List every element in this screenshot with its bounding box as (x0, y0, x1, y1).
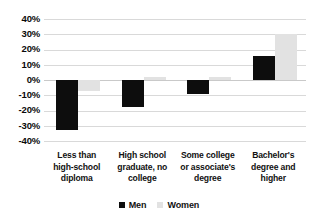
y-tick-label: 0% (0, 75, 40, 85)
bar-women (144, 77, 166, 80)
bar-chart: 40% 30% 20% 10% 0% -10% -20% -30% -40% (0, 0, 318, 221)
bar-men (122, 80, 144, 107)
x-label-line: diploma (44, 173, 110, 185)
bar-group (241, 19, 307, 141)
bar-women (78, 80, 100, 91)
x-label-line: degree and (241, 162, 307, 174)
gridline-minus-40 (44, 141, 306, 142)
bar-men (187, 80, 209, 94)
x-label-line: Less than (44, 150, 110, 162)
x-label-line: high-school (44, 162, 110, 174)
x-label-line: Some college (175, 150, 241, 162)
bar-women (275, 34, 297, 80)
legend-label-men: Men (129, 200, 147, 210)
y-tick-label: -40% (0, 136, 40, 146)
x-label-line: college (110, 173, 176, 185)
legend-label-women: Women (167, 200, 199, 210)
y-tick-label: 10% (0, 60, 40, 70)
x-label-high-school-graduate: High school graduate, no college (110, 150, 176, 185)
x-label-bachelors-degree: Bachelor's degree and higher (241, 150, 307, 185)
plot-area (44, 19, 306, 141)
bar-group (44, 19, 110, 141)
women-swatch-icon (157, 202, 163, 208)
x-label-line: Bachelor's (241, 150, 307, 162)
x-label-some-college: Some college or associate's degree (175, 150, 241, 185)
x-label-less-than-high-school: Less than high-school diploma (44, 150, 110, 185)
x-label-line: graduate, no (110, 162, 176, 174)
bar-men (253, 56, 275, 80)
y-tick-label: 20% (0, 44, 40, 54)
x-label-line: higher (241, 173, 307, 185)
x-axis-category-labels: Less than high-school diploma High schoo… (44, 150, 306, 196)
legend-item-women[interactable]: Women (157, 200, 199, 210)
y-tick-label: 30% (0, 29, 40, 39)
y-tick-label: -20% (0, 105, 40, 115)
x-label-line: or associate's (175, 162, 241, 174)
bar-group (175, 19, 241, 141)
x-label-line: High school (110, 150, 176, 162)
men-swatch-icon (119, 202, 125, 208)
legend-item-men[interactable]: Men (119, 200, 147, 210)
bar-group (110, 19, 176, 141)
y-tick-label: -30% (0, 121, 40, 131)
y-tick-label: -10% (0, 90, 40, 100)
y-axis-tick-labels: 40% 30% 20% 10% 0% -10% -20% -30% -40% (0, 0, 40, 221)
x-label-line: degree (175, 173, 241, 185)
y-tick-label: 40% (0, 14, 40, 24)
bar-men (56, 80, 78, 130)
bar-women (209, 77, 231, 80)
chart-legend: Men Women (0, 200, 318, 210)
